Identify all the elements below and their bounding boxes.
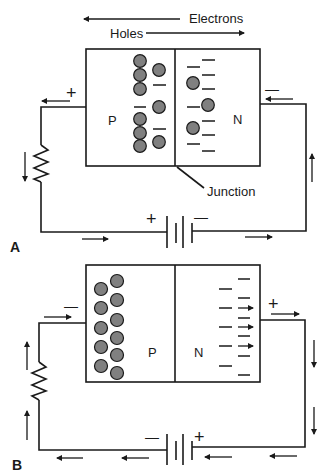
battery-plus-sign: + (194, 427, 205, 447)
battery-minus-sign: — (194, 209, 208, 225)
left-wire-top (41, 107, 86, 145)
left-terminal-sign: + (66, 83, 77, 103)
junction-pointer (177, 167, 204, 188)
figure-b-label: B (12, 457, 22, 473)
resistor-icon (34, 145, 48, 182)
figure-b: P N (12, 265, 314, 473)
right-terminal-sign: + (268, 294, 279, 314)
p-region-label: P (148, 345, 157, 360)
left-terminal-sign: — (64, 298, 78, 314)
holes-label: Holes (110, 26, 144, 41)
figure-a: Electrons Holes P N (10, 11, 312, 255)
battery-icon (167, 434, 192, 465)
n-region-label: N (194, 345, 203, 360)
junction-label: Junction (207, 184, 255, 199)
figure-a-label: A (10, 239, 20, 255)
pn-junction-diagram: Electrons Holes P N (0, 0, 326, 476)
holes-direction: Holes (110, 26, 244, 41)
battery-icon (167, 216, 192, 248)
resistor-icon (32, 362, 46, 400)
electrons-label: Electrons (189, 11, 244, 26)
n-region-label: N (233, 112, 242, 127)
left-wire-top (39, 323, 86, 362)
electrons-direction: Electrons (84, 11, 244, 26)
p-region-label: P (108, 113, 117, 128)
semiconductor-block (86, 49, 260, 166)
battery-plus-sign: + (146, 209, 157, 229)
right-terminal-sign: — (265, 81, 279, 97)
battery-minus-sign: — (145, 429, 159, 445)
